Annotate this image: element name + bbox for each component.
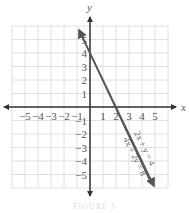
svg-text:−5: −5 <box>19 110 31 122</box>
svg-text:1: 1 <box>100 110 106 122</box>
svg-text:3: 3 <box>82 61 88 73</box>
svg-text:−3: −3 <box>45 110 57 122</box>
svg-text:−2: −2 <box>58 110 70 122</box>
svg-text:1: 1 <box>82 88 88 100</box>
svg-text:4: 4 <box>82 47 88 59</box>
svg-text:2: 2 <box>82 74 88 86</box>
figure-caption: FIGURE 5 <box>0 202 189 211</box>
svg-text:−2: −2 <box>75 128 87 140</box>
svg-text:4: 4 <box>139 110 145 122</box>
svg-text:−5: −5 <box>75 169 87 181</box>
coordinate-plane: x y −5−4−3−2−11234554321−1−2−3−4−5 2x + … <box>0 0 189 213</box>
x-axis-label: x <box>180 101 186 113</box>
svg-text:5: 5 <box>152 110 158 122</box>
svg-text:3: 3 <box>126 110 132 122</box>
svg-text:−4: −4 <box>32 110 44 122</box>
svg-text:−3: −3 <box>75 142 87 154</box>
svg-text:−4: −4 <box>75 155 87 167</box>
svg-text:−1: −1 <box>75 115 87 127</box>
y-axis-label: y <box>86 1 92 13</box>
